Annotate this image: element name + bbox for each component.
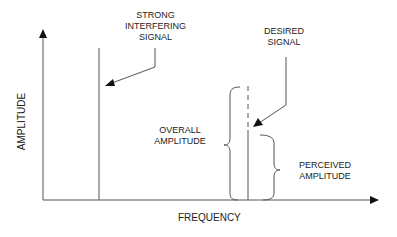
diagram-canvas: [0, 0, 397, 237]
x-axis-arrow-icon: [370, 196, 379, 204]
desired-signal-pointer: [259, 57, 286, 123]
y-axis-label: AMPLITUDE: [16, 92, 27, 152]
y-axis-arrow-icon: [39, 29, 47, 38]
desired-signal-arrow-icon: [253, 118, 263, 127]
overall-amplitude-brace: [224, 87, 240, 200]
strong-signal-arrow-icon: [105, 79, 115, 86]
overall-amplitude-label: OVERALL AMPLITUDE: [144, 125, 216, 147]
perceived-amplitude-brace: [260, 135, 280, 200]
strong-signal-pointer: [112, 48, 155, 83]
perceived-amplitude-label: PERCEIVED AMPLITUDE: [290, 160, 360, 182]
x-axis-label: FREQUENCY: [178, 212, 241, 223]
strong-signal-label: STRONG INTERFERING SIGNAL: [118, 10, 193, 43]
desired-signal-label: DESIRED SIGNAL: [258, 26, 310, 48]
